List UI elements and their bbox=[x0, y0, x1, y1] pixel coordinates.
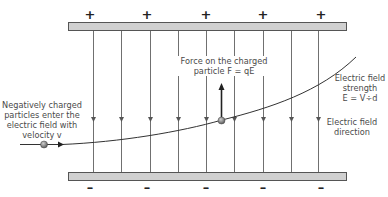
plus-sign: + bbox=[315, 8, 327, 21]
plus-sign: + bbox=[141, 8, 153, 21]
entry-label-line: velocity v bbox=[0, 130, 84, 140]
minus-sign: – bbox=[315, 181, 327, 194]
entry-label-line: Negatively charged bbox=[0, 100, 84, 110]
force-label-line: Force on the charged bbox=[176, 56, 272, 66]
incoming-particle-icon bbox=[41, 141, 48, 148]
deflected-particle-icon bbox=[218, 117, 225, 124]
field-strength-label-line: E = V÷d bbox=[330, 93, 388, 103]
minus-sign: – bbox=[200, 181, 212, 194]
entry-label: Negatively charged particles enter the e… bbox=[0, 100, 84, 140]
field-direction-label-line: Electric field bbox=[321, 117, 383, 127]
force-arrowhead-icon bbox=[219, 83, 225, 90]
plus-sign: + bbox=[257, 8, 269, 21]
minus-sign: – bbox=[84, 181, 96, 194]
field-lines bbox=[94, 31, 319, 172]
minus-sign: – bbox=[141, 181, 153, 194]
plus-sign: + bbox=[200, 8, 212, 21]
field-strength-label-line: Electric field bbox=[330, 73, 388, 83]
plus-sign: + bbox=[84, 8, 96, 21]
minus-sign: – bbox=[257, 181, 269, 194]
field-strength-label: Electric field strength E = V÷d bbox=[330, 73, 388, 103]
field-strength-label-line: strength bbox=[330, 83, 388, 93]
positive-plate bbox=[69, 23, 347, 31]
force-label-line: particle F = qE bbox=[176, 66, 272, 76]
velocity-arrow-icon bbox=[58, 142, 64, 148]
entry-label-line: particles enter the bbox=[0, 110, 84, 120]
force-label: Force on the charged particle F = qE bbox=[176, 56, 272, 76]
field-direction-label: Electric field direction bbox=[321, 117, 383, 137]
field-direction-label-line: direction bbox=[321, 127, 383, 137]
entry-label-line: electric field with bbox=[0, 120, 84, 130]
